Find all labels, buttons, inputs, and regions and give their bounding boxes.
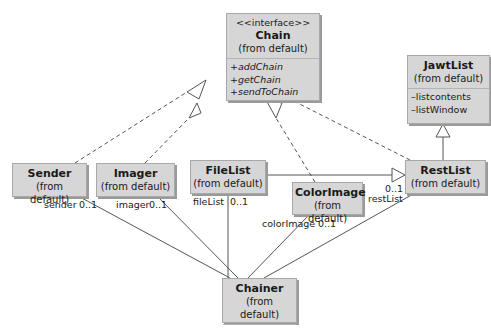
role-label-sender: sender [44, 199, 77, 210]
class-chainer[interactable]: Chainer (from default) [222, 278, 297, 323]
role-label-filelist: fileList [193, 196, 224, 207]
arrowhead-sender [187, 80, 206, 99]
class-name: JawtList [410, 59, 487, 72]
class-package: (from default) [408, 177, 483, 190]
multiplicity-sender: 0..1 [79, 199, 97, 210]
empty-compartment [223, 324, 296, 328]
realization-imager-chain [145, 118, 189, 163]
class-jawtlist[interactable]: JawtList (from default) –listcontents –l… [407, 55, 490, 124]
class-package: (from default) [99, 180, 172, 193]
role-label-colorimage: colorImage [262, 218, 315, 229]
class-package: (from default) [225, 295, 294, 321]
class-name: Imager [99, 167, 172, 180]
class-name: Chainer [225, 282, 294, 295]
arrowhead-colorimage [266, 100, 282, 118]
operation: +sendToChain [230, 86, 316, 99]
arrowhead-filelist-restlist [392, 168, 405, 182]
attribute: –listWindow [411, 104, 486, 117]
class-chain[interactable]: <<interface>> Chain (from default) +addC… [226, 13, 320, 101]
class-sender[interactable]: Sender (from default) [12, 163, 87, 197]
multiplicity-imager: 0..1 [149, 199, 167, 210]
class-stereotype: <<interface>> [229, 17, 317, 29]
class-restlist[interactable]: RestList (from default) [405, 160, 486, 194]
class-imager[interactable]: Imager (from default) [96, 163, 175, 197]
class-package: (from default) [229, 42, 317, 55]
class-package: (from default) [410, 72, 487, 85]
arrowhead-jawtlist [436, 124, 450, 137]
class-name: ColorImage [295, 186, 360, 199]
class-package: (from default) [193, 177, 263, 190]
class-name: FileList [193, 164, 263, 177]
class-colorimage[interactable]: ColorImage (from default) [292, 182, 363, 215]
multiplicity-colorimage: 0..1 [318, 218, 336, 229]
class-name: Sender [15, 167, 84, 180]
attribute: –listcontents [411, 91, 486, 104]
multiplicity-restlist: 0..1 [385, 183, 403, 194]
realization-colorimage-chain [276, 118, 315, 182]
role-label-imager: imager [116, 199, 150, 210]
class-name: Chain [229, 29, 317, 42]
role-label-restlist: restList [368, 193, 403, 204]
operation: +getChain [230, 74, 316, 87]
multiplicity-filelist: 0..1 [230, 196, 248, 207]
association-imager [157, 196, 238, 278]
class-name: RestList [408, 164, 483, 177]
operation: +addChain [230, 61, 316, 74]
class-filelist[interactable]: FileList (from default) [190, 160, 266, 194]
realization-restlist-chain [276, 92, 410, 160]
arrowhead-imager [189, 103, 201, 118]
realization-sender-chain [75, 92, 187, 163]
